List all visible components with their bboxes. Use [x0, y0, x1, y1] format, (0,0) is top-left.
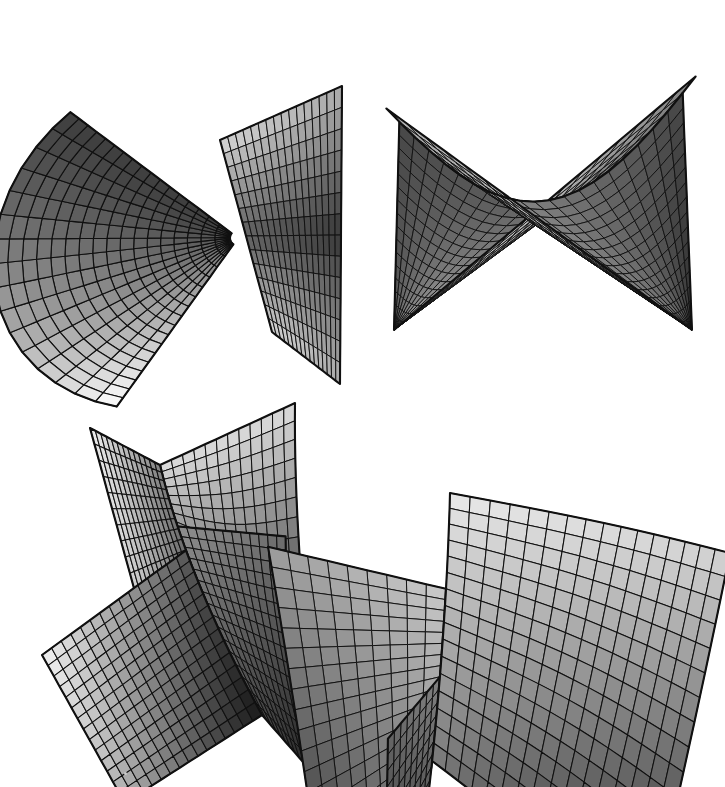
surface-panel-top-right	[362, 0, 725, 393]
dust-speck	[124, 772, 127, 775]
surface-panel-top-left	[0, 0, 362, 393]
figure-plate	[0, 0, 725, 787]
surface-panel-bottom-right	[362, 393, 725, 787]
